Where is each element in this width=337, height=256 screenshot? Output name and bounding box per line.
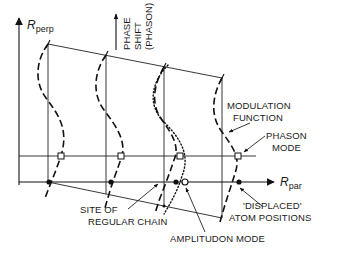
amplitudon-mode-label: AMPLITUDON MODE xyxy=(170,233,265,244)
displaced-marker-3 xyxy=(177,153,183,159)
site-of-regular-chain-label: SITE OF REGULAR CHAIN xyxy=(80,204,167,227)
chain-end-dot xyxy=(162,204,165,207)
site-dot-4 xyxy=(236,179,241,184)
displaced-marker-1 xyxy=(58,153,64,159)
modulation-curve-3 xyxy=(155,67,176,214)
amplitudon-curve xyxy=(153,65,185,214)
phason-mode-label: PHASON MODE xyxy=(266,130,309,153)
site-dot-3 xyxy=(173,179,178,184)
phase-shift-label: PHASE SHIFT (PHASON) xyxy=(121,3,154,50)
displaced-marker-2 xyxy=(118,153,124,159)
modulation-function-label: MODULATION FUNCTION xyxy=(227,100,293,123)
site-dot-2 xyxy=(108,179,113,184)
modulation-curve-2 xyxy=(96,55,123,208)
r-perp-label: Rperp xyxy=(27,18,54,34)
annotations: MODULATION FUNCTION PHASON MODE 'DISPLAC… xyxy=(80,100,311,244)
displaced-atom-positions-label: 'DISPLACED' ATOM POSITIONS xyxy=(229,200,311,223)
phase-shift-indicator: PHASE SHIFT (PHASON) xyxy=(116,3,154,50)
modulation-curve-1 xyxy=(38,44,64,198)
amplitudon-marker xyxy=(182,179,188,185)
modulation-curves xyxy=(38,44,237,222)
markers xyxy=(46,153,241,208)
modulated-structure-diagram: Rperp Rpar PHASE SHIFT (PHASON) xyxy=(0,0,337,256)
r-par-label: Rpar xyxy=(280,175,302,191)
bottom-slanted-line xyxy=(48,182,222,218)
site-dot-1 xyxy=(46,179,51,184)
displaced-marker-4 xyxy=(235,153,241,159)
